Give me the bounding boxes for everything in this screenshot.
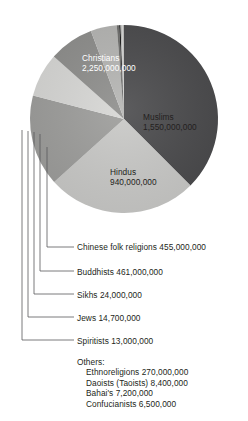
others-heading: Others: [77,357,188,367]
callout-label-sikhs: Sikhs 24,000,000 [77,290,142,300]
others-item-daoists: Daoists (Taoists) 8,400,000 [77,378,188,388]
pie-shading [30,25,218,213]
callout-label-buddhists: Buddhists 461,000,000 [77,267,163,277]
pie-chart-figure: Christians 2,250,000,000 Muslims 1,550,0… [0,0,248,421]
others-item-bahais: Bahai's 7,200,000 [77,388,188,398]
callout-label-chinese-folk-religions: Chinese folk religions 455,000,000 [77,242,206,252]
callout-label-spiritists: Spiritists 13,000,000 [77,336,153,346]
others-block: Others: Ethnoreligions 270,000,000 Daois… [77,357,188,409]
callout-label-jews: Jews 14,700,000 [77,313,140,323]
others-item-confucianists: Confucianists 6,500,000 [77,399,188,409]
others-item-ethnoreligions: Ethnoreligions 270,000,000 [77,367,188,377]
